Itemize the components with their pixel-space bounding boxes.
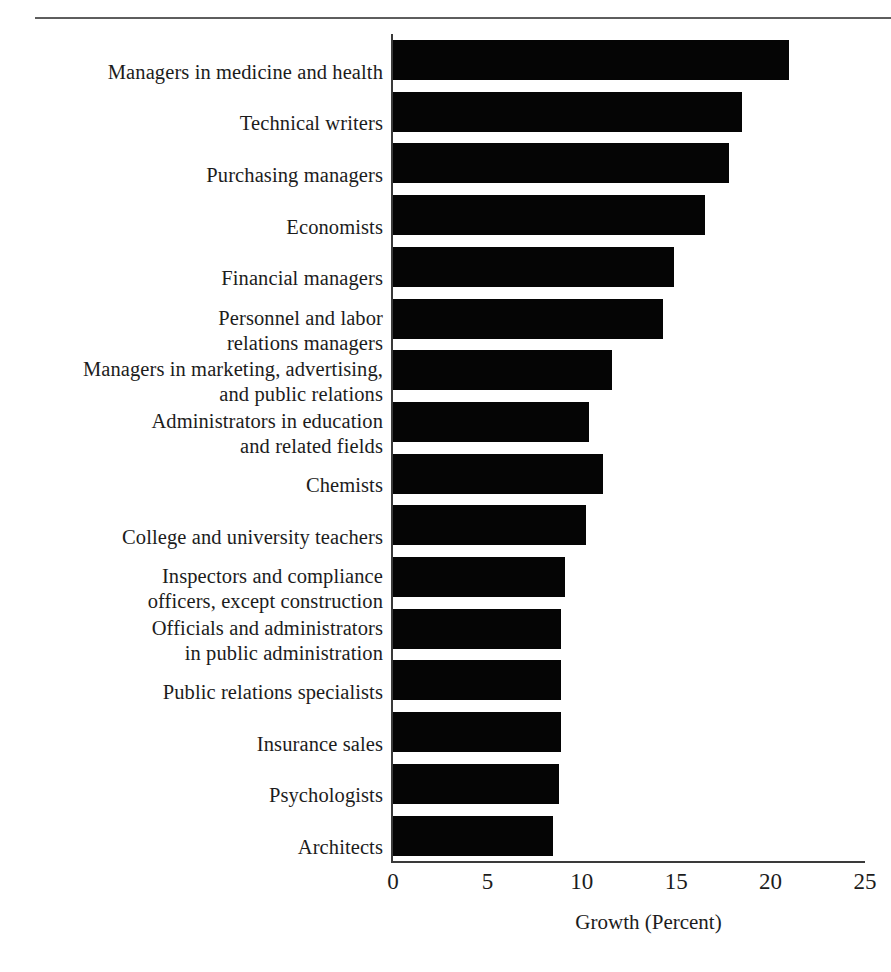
bar-row: Architects <box>0 810 891 861</box>
bar <box>393 505 586 545</box>
bar-row: Purchasing managers <box>0 137 891 188</box>
bar <box>393 712 561 752</box>
x-tick-label: 5 <box>482 868 494 896</box>
figure-bar-chart: Managers in medicine and healthTechnical… <box>0 0 891 972</box>
bar-row: College and university teachers <box>0 499 891 550</box>
bar <box>393 247 674 287</box>
category-label: Economists <box>0 215 383 240</box>
plot-area: Managers in medicine and healthTechnical… <box>0 0 891 972</box>
bar-row: Chemists <box>0 448 891 499</box>
category-label: Chemists <box>0 473 383 498</box>
category-label: Financial managers <box>0 266 383 291</box>
bar <box>393 40 789 80</box>
bar <box>393 402 589 442</box>
bar-row: Personnel and labor relations managers <box>0 293 891 344</box>
bar-row: Managers in marketing, advertising, and … <box>0 344 891 395</box>
bar-row: Managers in medicine and health <box>0 34 891 85</box>
x-tick-label: 25 <box>854 868 877 896</box>
bar-row: Insurance sales <box>0 706 891 757</box>
bar-row: Technical writers <box>0 86 891 137</box>
bar-row: Administrators in education and related … <box>0 396 891 447</box>
bar-row: Officials and administrators in public a… <box>0 603 891 654</box>
bar <box>393 764 559 804</box>
bar <box>393 816 553 856</box>
bar <box>393 92 742 132</box>
bar <box>393 143 729 183</box>
bar <box>393 609 561 649</box>
x-axis-title: Growth (Percent) <box>0 910 891 935</box>
category-label: College and university teachers <box>0 525 383 550</box>
bar <box>393 454 603 494</box>
bar <box>393 557 565 597</box>
bar-row: Psychologists <box>0 758 891 809</box>
bar <box>393 350 612 390</box>
x-tick-label: 0 <box>387 868 399 896</box>
category-label: Insurance sales <box>0 732 383 757</box>
x-tick-label: 20 <box>759 868 782 896</box>
category-label: Technical writers <box>0 111 383 136</box>
bar-row: Economists <box>0 189 891 240</box>
bar <box>393 195 705 235</box>
bar <box>393 660 561 700</box>
x-tick-label: 15 <box>665 868 688 896</box>
category-label: Psychologists <box>0 783 383 808</box>
x-tick-label: 10 <box>570 868 593 896</box>
category-label: Architects <box>0 835 383 860</box>
category-label: Managers in medicine and health <box>0 60 383 85</box>
bar <box>393 299 663 339</box>
category-label: Purchasing managers <box>0 163 383 188</box>
category-label: Public relations specialists <box>0 680 383 705</box>
x-axis-title-text: Growth (Percent) <box>575 910 721 934</box>
bar-row: Inspectors and compliance officers, exce… <box>0 551 891 602</box>
bar-row: Public relations specialists <box>0 654 891 705</box>
bar-row: Financial managers <box>0 241 891 292</box>
x-axis-line <box>391 861 865 863</box>
